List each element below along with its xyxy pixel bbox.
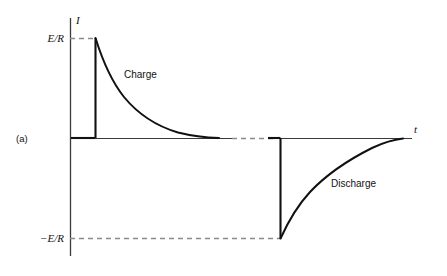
discharge-annotation-label: Discharge (331, 178, 376, 189)
y-tick-label-positive: E/R (47, 32, 65, 44)
y-tick-label-negative: −E/R (40, 232, 64, 244)
rc-current-waveform-figure: I t E/R −E/R (a) Charge Discharge (0, 0, 447, 276)
charge-annotation-label: Charge (124, 69, 157, 80)
panel-label-a: (a) (16, 133, 28, 144)
